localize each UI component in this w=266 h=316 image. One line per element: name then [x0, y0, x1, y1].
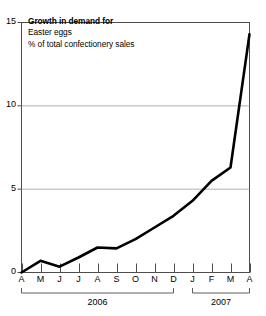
chart-title-line-3: % of total confectionery sales: [28, 39, 198, 50]
year-bracket-2007: [193, 288, 250, 293]
chart-page: Growth in demand for Easter eggs % of to…: [0, 0, 266, 316]
y-axis-label-15: 15: [0, 16, 16, 26]
chart-title-block: Growth in demand for Easter eggs % of to…: [28, 16, 198, 50]
x-axis-label-10-F: F: [205, 274, 219, 284]
x-axis-label-11-M: M: [224, 274, 238, 284]
x-axis-label-7-N: N: [148, 274, 162, 284]
x-axis-label-1-M: M: [34, 274, 48, 284]
year-brackets: [22, 288, 250, 293]
x-axis-label-3-J: J: [72, 274, 86, 284]
year-bracket-2006: [22, 288, 174, 293]
y-axis-label-10: 10: [0, 99, 16, 109]
x-axis-label-5-S: S: [110, 274, 124, 284]
y-axis-label-5: 5: [0, 183, 16, 193]
x-axis-label-9-J: J: [186, 274, 200, 284]
x-axis-label-0-A: A: [15, 274, 29, 284]
chart-title-line-2: Easter eggs: [28, 27, 198, 38]
x-axis-label-4-A: A: [91, 274, 105, 284]
x-axis-label-8-D: D: [167, 274, 181, 284]
x-axis-label-12-A: A: [243, 274, 257, 284]
chart-title-line-1: Growth in demand for: [28, 16, 198, 27]
plot-frame: [22, 23, 250, 273]
year-label-2006: 2006: [22, 297, 174, 307]
x-axis-label-6-O: O: [129, 274, 143, 284]
y-axis-tick-marks: [18, 23, 22, 273]
year-label-2007: 2007: [193, 297, 250, 307]
x-axis-label-2-J: J: [53, 274, 67, 284]
